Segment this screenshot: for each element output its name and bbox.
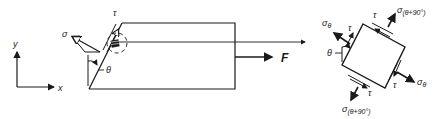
- shear-label-left: τ: [348, 23, 352, 33]
- element-angle-label: θ: [327, 48, 332, 58]
- shear-label-bottom: τ: [368, 88, 372, 98]
- cut-plane-stresses: τ σ θ: [62, 8, 127, 86]
- hatched-element: [111, 39, 120, 47]
- sigma-90-label-bottom: σ(θ+90°): [342, 104, 371, 116]
- shear-stress-label: τ: [113, 8, 117, 18]
- sigma-theta-label-right: σθ: [417, 77, 426, 88]
- sigma-theta-label-left: σθ: [322, 18, 331, 29]
- y-axis-label: y: [12, 39, 18, 49]
- x-axis-label: x: [57, 83, 63, 93]
- sigma-90-label-top: σ(θ+90°): [397, 5, 426, 17]
- shear-label-top: τ: [373, 10, 377, 20]
- angle-label: θ: [106, 65, 111, 75]
- bar-body: F: [89, 23, 305, 89]
- coordinate-axes: y x: [12, 39, 63, 93]
- stress-diagram: y x F τ σ θ: [0, 0, 446, 119]
- normal-stress-label: σ: [62, 29, 68, 39]
- shear-label-right: τ: [393, 80, 397, 90]
- stress-element: τ τ τ τ σθ σθ σ(θ+90°) σ(θ+90°) θ: [322, 5, 426, 116]
- force-label: F: [281, 51, 289, 65]
